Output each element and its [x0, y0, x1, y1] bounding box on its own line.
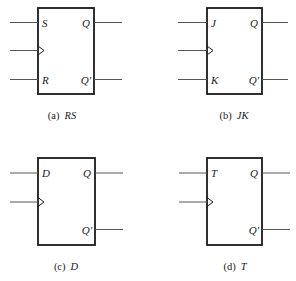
clock-triangle-icon	[38, 46, 44, 55]
pin-label-q: Q	[250, 17, 258, 29]
pin-label-q-bar: Q'	[249, 74, 260, 86]
pin-label-q-bar: Q'	[81, 74, 92, 86]
caption: (c)D	[54, 261, 79, 273]
caption: (d)T	[223, 261, 247, 273]
pin-label-d: D	[41, 167, 50, 179]
pin-label-r: R	[41, 74, 49, 86]
flip-flop-symbols: S R Q Q' (a)RS J K Q Q' (b)JK D Q Q' (c)…	[0, 0, 296, 281]
pin-label-q: Q	[83, 167, 91, 179]
pin-label-q-bar: Q'	[249, 224, 260, 236]
pin-label-k: K	[210, 74, 219, 86]
pin-label-t: T	[211, 167, 218, 179]
pin-label-q: Q	[82, 17, 90, 29]
t-flip-flop: T Q Q' (d)T	[179, 158, 290, 273]
rs-flip-flop: S R Q Q' (a)RS	[10, 8, 122, 122]
caption: (a)RS	[48, 110, 77, 122]
clock-triangle-icon	[38, 198, 44, 207]
pin-label-q: Q	[250, 167, 258, 179]
pin-label-s: S	[42, 17, 48, 29]
pin-label-q-bar: Q'	[82, 224, 93, 236]
pin-label-j: J	[211, 17, 217, 29]
caption: (b)JK	[220, 110, 250, 122]
d-flip-flop: D Q Q' (c)D	[10, 158, 123, 273]
jk-flip-flop: J K Q Q' (b)JK	[178, 8, 288, 122]
